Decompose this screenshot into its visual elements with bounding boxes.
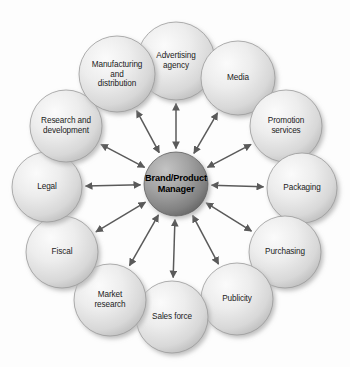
spoke-arrow-publicity — [193, 215, 219, 264]
node-label-packaging: Packaging — [259, 183, 345, 193]
spoke-arrow-market-research — [130, 215, 159, 266]
spoke-arrow-sales-force — [173, 219, 175, 277]
spoke-arrow-promotion-services — [207, 144, 251, 167]
node-label-market-research: Market research — [66, 290, 154, 309]
spoke-arrow-manufacturing-and-distribution — [137, 111, 160, 153]
node-label-legal: Legal — [4, 182, 90, 192]
diagram-canvas: Advertising agencyMediaPromotion service… — [0, 0, 350, 367]
node-label-research-and-development: Research and development — [22, 116, 110, 135]
node-label-purchasing: Purchasing — [241, 247, 329, 257]
node-label-manufacturing-and-distribution: Manufacturing and distribution — [71, 60, 163, 89]
node-label-publicity: Publicity — [193, 294, 281, 304]
spoke-arrow-purchasing — [206, 203, 251, 231]
node-label-sales-force: Sales force — [128, 312, 216, 322]
spoke-arrow-media — [194, 113, 218, 153]
spoke-arrow-research-and-development — [101, 144, 145, 167]
spoke-arrow-fiscal — [96, 202, 146, 232]
node-label-fiscal: Fiscal — [18, 247, 106, 257]
node-label-promotion-services: Promotion services — [242, 116, 330, 135]
node-label-media: Media — [193, 73, 283, 83]
center-node-label: Brand/Product Manager — [132, 173, 220, 194]
